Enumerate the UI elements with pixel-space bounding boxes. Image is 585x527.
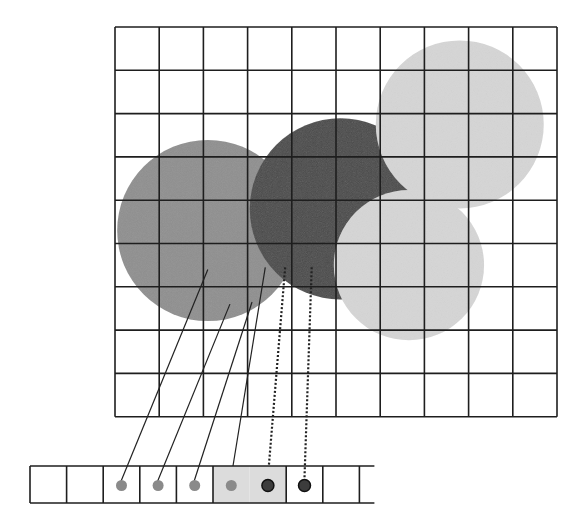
solid-sample-line	[194, 302, 252, 483]
diagram-canvas	[0, 0, 585, 527]
medium-sample-dot	[189, 480, 200, 491]
sample-strip	[30, 466, 374, 503]
light-gray-circle-lower	[334, 190, 484, 340]
medium-sample-dot	[116, 480, 127, 491]
light-gray-circle-upper	[376, 40, 544, 208]
medium-sample-dot	[226, 480, 237, 491]
medium-sample-dot	[153, 480, 164, 491]
dark-sample-dot	[299, 480, 311, 492]
pixel-sampling-diagram	[0, 0, 585, 527]
dotted-sample-line	[305, 267, 312, 477]
circles-layer	[117, 40, 544, 340]
dotted-sample-line	[268, 267, 285, 477]
dark-sample-dot	[262, 480, 274, 492]
